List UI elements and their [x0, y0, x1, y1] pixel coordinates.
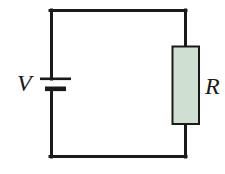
resistor-body — [173, 47, 200, 125]
battery-long-plate — [40, 78, 71, 81]
battery-short-plate — [45, 87, 66, 92]
circuit-diagram-figure: V R — [0, 0, 225, 174]
battery-label-v: V — [17, 71, 32, 95]
resistor-label-r: R — [205, 74, 220, 98]
circuit-schematic-svg — [0, 0, 225, 174]
